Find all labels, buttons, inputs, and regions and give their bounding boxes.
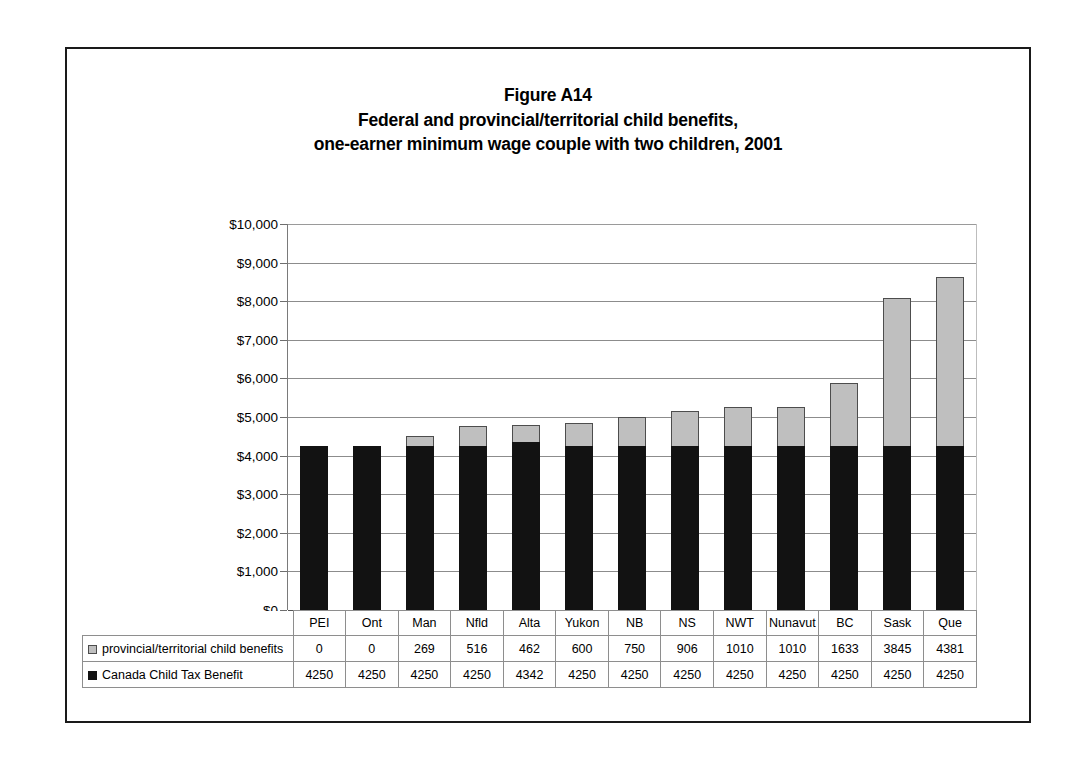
table-column-header: Nunavut	[766, 611, 819, 636]
bar-segment-provincial[interactable]	[830, 383, 858, 446]
stacked-bar[interactable]	[777, 407, 805, 610]
title-line-2: Federal and provincial/territorial child…	[67, 108, 1029, 133]
bar-column-ont[interactable]	[341, 224, 394, 610]
y-axis-tick-label: $4,000	[237, 448, 287, 463]
table-cell: 0	[293, 636, 346, 662]
table-corner-blank	[83, 611, 294, 636]
bar-segment-provincial[interactable]	[671, 411, 699, 446]
bar-segment-federal[interactable]	[671, 446, 699, 610]
bar-segment-federal[interactable]	[353, 446, 381, 610]
y-axis-tick-label: $5,000	[237, 410, 287, 425]
table-column-header: NS	[661, 611, 714, 636]
bar-segment-federal[interactable]	[406, 446, 434, 610]
stacked-bar[interactable]	[618, 417, 646, 610]
table-cell: 3845	[871, 636, 924, 662]
bar-segment-provincial[interactable]	[777, 407, 805, 446]
bar-segment-provincial[interactable]	[883, 298, 911, 446]
bar-column-man[interactable]	[394, 224, 447, 610]
y-axis-tick-label: $7,000	[237, 332, 287, 347]
bar-column-pei[interactable]	[288, 224, 341, 610]
bar-segment-federal[interactable]	[618, 446, 646, 610]
bar-column-nwt[interactable]	[711, 224, 764, 610]
legend-label: provincial/territorial child benefits	[102, 642, 283, 656]
page-title: Figure A14 Federal and provincial/territ…	[67, 83, 1029, 157]
data-table: PEIOntManNfldAltaYukonNBNSNWTNunavutBCSa…	[82, 610, 977, 688]
y-axis-tick-label: $2,000	[237, 525, 287, 540]
table-cell: 4250	[924, 662, 977, 688]
table-cell: 1010	[766, 636, 819, 662]
table-row-provincial: provincial/territorial child benefits002…	[83, 636, 977, 662]
bar-column-ns[interactable]	[658, 224, 711, 610]
bar-segment-provincial[interactable]	[512, 425, 540, 443]
table-column-header: Man	[398, 611, 451, 636]
bar-segment-federal[interactable]	[936, 446, 964, 610]
table-column-header: BC	[819, 611, 872, 636]
legend-entry: provincial/territorial child benefits	[83, 636, 294, 662]
table-cell: 0	[346, 636, 399, 662]
table-column-header: PEI	[293, 611, 346, 636]
table-cell: 1010	[714, 636, 767, 662]
plot-area	[287, 224, 977, 610]
legend-label: Canada Child Tax Benefit	[102, 668, 243, 682]
stacked-bar[interactable]	[936, 277, 964, 610]
bar-column-bc[interactable]	[817, 224, 870, 610]
bar-segment-provincial[interactable]	[406, 436, 434, 446]
gray-square-icon	[88, 645, 97, 654]
bar-segment-federal[interactable]	[565, 446, 593, 610]
y-axis-tick-label: $1,000	[237, 564, 287, 579]
table-cell: 600	[556, 636, 609, 662]
bar-segment-federal[interactable]	[300, 446, 328, 610]
bar-column-sask[interactable]	[870, 224, 923, 610]
stacked-bar[interactable]	[512, 425, 540, 610]
table-cell: 750	[608, 636, 661, 662]
table-column-header: Alta	[503, 611, 556, 636]
y-axis-tick-label: $9,000	[237, 255, 287, 270]
stacked-bar[interactable]	[724, 407, 752, 610]
bar-segment-federal[interactable]	[777, 446, 805, 610]
stacked-bar[interactable]	[883, 298, 911, 610]
table-column-header: Ont	[346, 611, 399, 636]
bar-column-yukon[interactable]	[553, 224, 606, 610]
table-column-header: NB	[608, 611, 661, 636]
table-cell: 462	[503, 636, 556, 662]
bar-column-alta[interactable]	[500, 224, 553, 610]
bar-segment-provincial[interactable]	[618, 417, 646, 446]
black-square-icon	[88, 671, 97, 680]
table-column-header: Yukon	[556, 611, 609, 636]
table-cell: 4250	[714, 662, 767, 688]
table-cell: 4250	[766, 662, 819, 688]
bar-series-group	[288, 224, 976, 610]
bar-segment-federal[interactable]	[459, 446, 487, 610]
bar-segment-provincial[interactable]	[724, 407, 752, 446]
bar-segment-provincial[interactable]	[459, 426, 487, 446]
table-cell: 4381	[924, 636, 977, 662]
stacked-bar[interactable]	[353, 446, 381, 610]
bar-segment-federal[interactable]	[724, 446, 752, 610]
bar-segment-federal[interactable]	[512, 442, 540, 610]
bar-segment-federal[interactable]	[883, 446, 911, 610]
table-cell: 4250	[556, 662, 609, 688]
table-row-federal: Canada Child Tax Benefit4250425042504250…	[83, 662, 977, 688]
table-cell: 4342	[503, 662, 556, 688]
legend-entry: Canada Child Tax Benefit	[83, 662, 294, 688]
bar-column-nfld[interactable]	[447, 224, 500, 610]
table-column-header: NWT	[714, 611, 767, 636]
bar-column-que[interactable]	[923, 224, 976, 610]
stacked-bar[interactable]	[406, 436, 434, 610]
y-axis-tick-label: $3,000	[237, 487, 287, 502]
bar-segment-provincial[interactable]	[936, 277, 964, 446]
table-cell: 1633	[819, 636, 872, 662]
stacked-bar[interactable]	[300, 446, 328, 610]
bar-segment-provincial[interactable]	[565, 423, 593, 446]
y-axis-tick-label: $10,000	[229, 217, 287, 232]
table-column-header: Sask	[871, 611, 924, 636]
bar-column-nb[interactable]	[606, 224, 659, 610]
stacked-bar[interactable]	[671, 411, 699, 610]
table-column-header: Nfld	[451, 611, 504, 636]
stacked-bar[interactable]	[830, 383, 858, 610]
bar-segment-federal[interactable]	[830, 446, 858, 610]
table-cell: 4250	[661, 662, 714, 688]
stacked-bar[interactable]	[459, 426, 487, 610]
bar-column-nunavut[interactable]	[764, 224, 817, 610]
stacked-bar[interactable]	[565, 423, 593, 610]
